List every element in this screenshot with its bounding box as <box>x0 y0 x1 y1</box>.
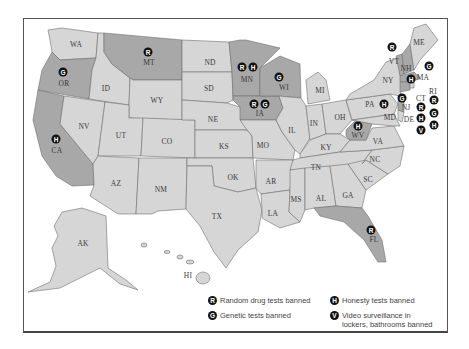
marker-h-icon: H <box>417 114 426 123</box>
state-label-va: VA <box>373 137 383 146</box>
marker-h-icon: H <box>430 121 439 130</box>
legend-label-line2: lockers, bathrooms banned <box>342 320 432 329</box>
state-label-md: MD <box>384 113 397 122</box>
state-label-nh: NH <box>400 64 411 73</box>
state-label-ky: KY <box>320 143 331 152</box>
marker-g-icon: G <box>261 100 270 109</box>
marker-h-icon: H <box>52 135 61 144</box>
state-label-id: ID <box>102 84 110 93</box>
state-label-ma: MA <box>417 73 430 82</box>
state-label-la: LA <box>268 209 278 218</box>
marker-r-icon: R <box>388 43 397 52</box>
state-label-wy: WY <box>151 96 164 105</box>
marker-g-icon: G <box>425 62 434 71</box>
marker-r-icon: R <box>417 103 426 112</box>
state-label-wv: WV <box>352 131 365 140</box>
marker-h-icon: H <box>354 122 363 131</box>
legend-label: Honesty tests banned <box>342 296 415 305</box>
state-label-sd: SD <box>204 84 214 93</box>
state-label-mn: MN <box>241 75 254 84</box>
state-label-nd: ND <box>204 58 215 67</box>
state-label-ct: CT <box>416 94 426 103</box>
genetic-marker-icon: G <box>208 311 217 320</box>
state-label-ga: GA <box>342 191 353 200</box>
marker-r-icon: R <box>250 100 259 109</box>
state-hi-maui <box>186 260 194 264</box>
state-label-ar: AR <box>266 177 277 186</box>
legend-item-genetic: G Genetic tests banned <box>208 311 291 320</box>
marker-r-icon: R <box>367 226 376 235</box>
state-label-nj: NJ <box>402 103 411 112</box>
state-label-ia: IA <box>256 109 264 118</box>
state-hi-molokai <box>164 251 170 254</box>
legend-label: Genetic tests banned <box>220 311 291 320</box>
marker-r-icon: R <box>238 63 247 72</box>
marker-g-icon: G <box>430 109 439 118</box>
state-label-ne: NE <box>208 115 218 124</box>
legend-label-line1: Video surveillance in <box>342 311 411 320</box>
state-label-nc: NC <box>370 155 381 164</box>
legend-item-random-drug: R Random drug tests banned <box>208 296 310 305</box>
state-label-in: IN <box>310 119 318 128</box>
state-label-me: ME <box>413 38 425 47</box>
marker-g-icon: G <box>275 73 284 82</box>
video-marker-icon: V <box>330 311 339 320</box>
state-label-ny: NY <box>382 76 393 85</box>
legend-item-video: V Video surveillance in lockers, bathroo… <box>330 311 432 329</box>
marker-g-icon: G <box>398 94 407 103</box>
state-label-fl: FL <box>369 235 378 244</box>
state-label-ca: CA <box>52 146 63 155</box>
marker-g-icon: G <box>59 68 68 77</box>
state-hi-kauai <box>141 243 147 247</box>
state-label-ks: KS <box>219 142 229 151</box>
marker-v-icon: V <box>417 126 426 135</box>
state-label-nm: NM <box>155 185 168 194</box>
state-label-tn: TN <box>311 163 321 172</box>
state-label-ms: MS <box>290 195 301 204</box>
state-label-oh: OH <box>334 113 345 122</box>
legend-label: Video surveillance in lockers, bathrooms… <box>342 311 432 329</box>
state-label-il: IL <box>288 126 295 135</box>
random-drug-marker-icon: R <box>208 296 217 305</box>
state-ak <box>28 208 138 292</box>
state-label-ut: UT <box>116 131 126 140</box>
state-label-co: CO <box>162 137 173 146</box>
state-label-or: OR <box>59 79 70 88</box>
state-label-hi: HI <box>184 271 192 280</box>
marker-h-icon: H <box>380 100 389 109</box>
marker-r-icon: R <box>430 96 439 105</box>
legend-item-honesty: H Honesty tests banned <box>330 296 415 305</box>
state-nd <box>182 40 232 72</box>
marker-h-icon: H <box>407 75 416 84</box>
honesty-marker-icon: H <box>330 296 339 305</box>
marker-r-icon: R <box>144 48 153 57</box>
state-label-mt: MT <box>143 58 155 67</box>
state-label-az: AZ <box>111 179 121 188</box>
state-label-ok: OK <box>227 173 238 182</box>
state-label-wa: WA <box>70 40 82 49</box>
state-label-ak: AK <box>77 239 88 248</box>
state-hi-oahu <box>177 255 183 259</box>
marker-h-icon: H <box>249 63 258 72</box>
state-label-nv: NV <box>78 122 89 131</box>
state-hi-big <box>196 272 210 284</box>
state-label-mo: MO <box>257 141 270 150</box>
state-label-ri: RI <box>429 87 437 96</box>
state-label-pa: PA <box>365 100 374 109</box>
state-ct <box>400 82 410 92</box>
state-label-tx: TX <box>212 212 222 221</box>
state-label-mi: MI <box>315 86 325 95</box>
state-label-sc: SC <box>363 175 373 184</box>
state-label-vt: VT <box>389 57 399 66</box>
state-label-al: AL <box>316 194 326 203</box>
state-label-wi: WI <box>279 83 289 92</box>
state-label-de: DE <box>404 115 414 124</box>
legend-label: Random drug tests banned <box>220 296 310 305</box>
